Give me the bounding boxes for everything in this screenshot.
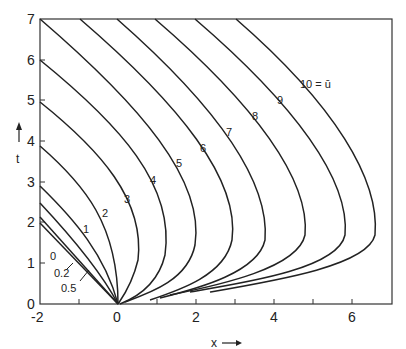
x-tick-label: 4 xyxy=(270,309,278,325)
x-axis-title: x xyxy=(211,336,242,349)
x-tick-label: 6 xyxy=(348,309,356,325)
plot-frame xyxy=(40,19,392,304)
curve-label-0: 0 xyxy=(50,250,56,262)
x-tick-label: 0 xyxy=(113,309,121,325)
curve-label-7: 7 xyxy=(226,126,232,138)
curve-label-8: 8 xyxy=(252,110,258,122)
svg-text:t: t xyxy=(16,152,20,166)
svg-text:x: x xyxy=(211,336,217,349)
y-axis-title: t xyxy=(16,122,22,166)
arrow-right-icon xyxy=(236,340,242,346)
y-tick-label: 2 xyxy=(27,214,35,230)
curve-label-1: 1 xyxy=(83,223,89,235)
curve-label-5: 5 xyxy=(176,157,182,169)
curve-label-0.5: 0.5 xyxy=(61,282,76,294)
curve-2 xyxy=(40,146,118,304)
y-tick-label: 1 xyxy=(27,255,35,271)
arrow-up-icon xyxy=(16,122,22,130)
curve-label-6: 6 xyxy=(200,142,206,154)
curve-5 xyxy=(40,19,196,302)
curve-label-9: 9 xyxy=(277,94,283,106)
leader-line xyxy=(80,270,89,281)
curve-label-2: 2 xyxy=(102,207,108,219)
characteristics-chart: -2 0 2 4 6 0 1 2 3 4 5 6 7 x t xyxy=(0,0,406,349)
curve-10 xyxy=(210,19,375,292)
curve-6 xyxy=(80,19,233,300)
curve-label-0.2: 0.2 xyxy=(54,267,69,279)
curve-label-10: 10 = ū xyxy=(300,78,331,90)
y-axis-ticks xyxy=(40,60,45,263)
y-tick-label: 3 xyxy=(27,174,35,190)
y-tick-label: 5 xyxy=(27,92,35,108)
y-tick-label: 7 xyxy=(27,11,35,27)
curve-label-4: 4 xyxy=(150,174,156,186)
curve-1 xyxy=(40,186,118,304)
x-tick-label: 2 xyxy=(192,309,200,325)
curve-label-3: 3 xyxy=(124,193,130,205)
y-tick-label: 6 xyxy=(27,52,35,68)
curve-9 xyxy=(190,19,345,292)
y-tick-label: 4 xyxy=(27,133,35,149)
y-tick-label: 0 xyxy=(27,296,35,312)
curves xyxy=(40,19,375,304)
